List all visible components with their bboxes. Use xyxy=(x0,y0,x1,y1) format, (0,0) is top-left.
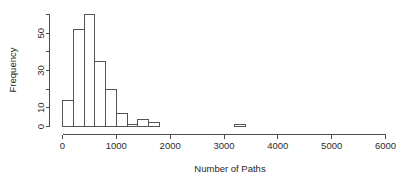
histogram-bar xyxy=(106,89,117,126)
histogram-bar xyxy=(84,15,95,127)
histogram-bar xyxy=(149,123,160,127)
y-tick-labels: 0103050 xyxy=(35,28,46,129)
x-tick-label: 0 xyxy=(60,140,65,151)
x-tick-labels: 0100020003000400050006000 xyxy=(60,140,396,151)
y-tick-label: 10 xyxy=(35,103,46,114)
x-tick-label: 1000 xyxy=(106,140,127,151)
histogram-plot: 0100020003000400050006000 0103050 Number… xyxy=(0,0,401,182)
histogram-figure: 0100020003000400050006000 0103050 Number… xyxy=(0,0,401,182)
histogram-bar xyxy=(73,29,84,126)
y-axis-title: Frequency xyxy=(7,47,18,92)
x-axis-title: Number of Paths xyxy=(194,163,266,174)
histogram-bar xyxy=(116,113,127,126)
x-tick-label: 2000 xyxy=(160,140,181,151)
y-tick-label: 30 xyxy=(35,65,46,76)
bars-group xyxy=(63,15,246,127)
x-tick-label: 5000 xyxy=(321,140,342,151)
histogram-bar xyxy=(235,125,246,127)
y-tick-label: 50 xyxy=(35,28,46,39)
histogram-bar xyxy=(138,119,149,126)
histogram-bar xyxy=(63,100,74,126)
y-axis xyxy=(46,15,50,127)
x-axis xyxy=(63,135,386,139)
x-tick-label: 6000 xyxy=(375,140,396,151)
x-tick-label: 3000 xyxy=(213,140,234,151)
histogram-bar xyxy=(95,61,106,126)
x-tick-label: 4000 xyxy=(267,140,288,151)
y-tick-label: 0 xyxy=(35,124,46,129)
histogram-bar xyxy=(127,125,138,127)
